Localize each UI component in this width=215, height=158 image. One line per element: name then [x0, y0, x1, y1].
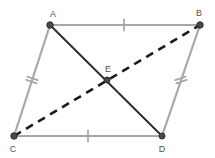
vertex-point-A — [47, 22, 53, 28]
geometry-figure: ABCDE — [0, 0, 215, 158]
vertex-label-C: C — [10, 144, 17, 154]
vertex-label-A: A — [50, 9, 56, 19]
vertex-label-E: E — [105, 64, 111, 74]
vertex-point-E — [104, 77, 110, 83]
vertex-label-D: D — [159, 144, 166, 154]
vertex-point-B — [197, 22, 203, 28]
vertex-point-D — [159, 133, 165, 139]
vertex-label-B: B — [196, 8, 202, 18]
vertex-point-C — [11, 133, 17, 139]
geometry-canvas: ABCDE — [0, 0, 215, 158]
